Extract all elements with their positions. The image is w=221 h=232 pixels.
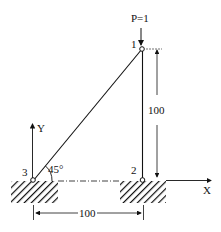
x-axis-label: X [203, 184, 211, 196]
node-1 [140, 47, 145, 52]
node-2 [140, 178, 145, 183]
support-right [120, 181, 166, 203]
truss-diagram: P=1 1 2 3 45° 100 100 X Y [0, 0, 221, 232]
node-3 [31, 178, 36, 183]
load-label: P=1 [131, 12, 149, 24]
angle-label: 45° [48, 163, 63, 175]
member-3-1 [33, 49, 142, 181]
node-1-label: 1 [131, 38, 137, 50]
support-left [11, 181, 58, 203]
y-axis-label: Y [37, 122, 45, 134]
dim-vertical-label: 100 [148, 104, 165, 116]
node-2-label: 2 [131, 164, 137, 176]
node-3-label: 3 [22, 166, 28, 178]
dim-horizontal-label: 100 [79, 207, 96, 219]
